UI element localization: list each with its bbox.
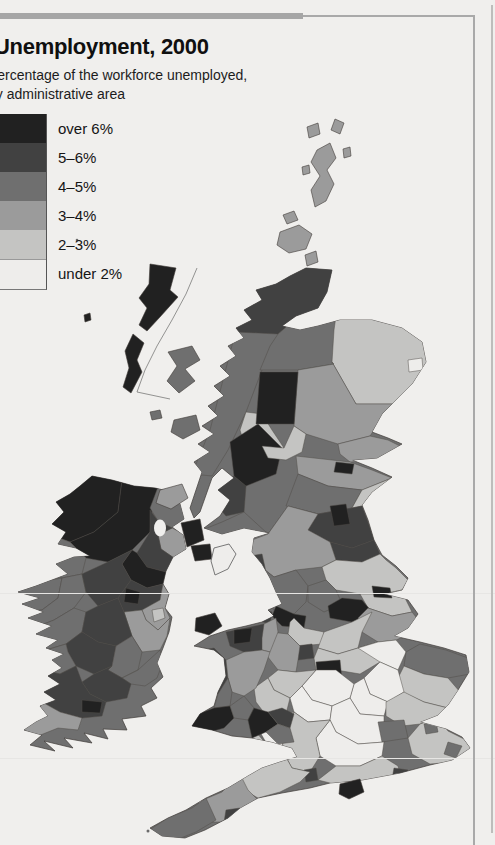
dust-speck-2 — [147, 830, 150, 833]
legend-label: 5–6% — [58, 143, 122, 172]
legend-label: 4–5% — [58, 172, 122, 201]
island-anglesey — [195, 613, 222, 635]
island-orkney-south — [305, 251, 318, 266]
header-rule — [0, 13, 303, 19]
region-nw-wales-spot — [234, 628, 252, 644]
region-aberdeen-city — [408, 358, 423, 372]
legend-swatch-column — [0, 114, 47, 290]
island-lewis-harris — [139, 264, 178, 331]
region-caithness-sutherland — [236, 262, 340, 334]
legend-swatch-4-5 — [0, 172, 46, 201]
island-mull — [171, 415, 200, 439]
scan-artifact-line — [0, 593, 495, 594]
region-london — [378, 720, 408, 742]
legend-swatch-3-4 — [0, 201, 46, 230]
island-shetland-east-speck — [343, 147, 351, 158]
region-hull — [372, 586, 392, 598]
island-shetland-mainland — [311, 143, 336, 207]
island-st-kilda — [84, 313, 91, 322]
island-shetland-west-speck — [302, 165, 310, 175]
map-title: Unemployment, 2000 — [0, 34, 209, 60]
island-kintyre-isles-2 — [191, 544, 212, 561]
region-medway — [424, 722, 438, 734]
island-skye — [167, 346, 200, 393]
legend-swatch-over-6 — [0, 114, 46, 143]
legend-labels: over 6% 5–6% 4–5% 3–4% 2–3% under 2% — [58, 114, 122, 288]
region-cornwall — [146, 798, 216, 840]
region-tralee-spot — [82, 700, 102, 713]
map-subtitle: Percentage of the workforce unemployed, … — [0, 66, 247, 104]
region-edinburgh-city — [334, 462, 354, 474]
legend-swatch-2-3 — [0, 230, 46, 259]
map-subtitle-line1: Percentage of the workforce unemployed, — [0, 66, 247, 85]
ireland-regions — [10, 474, 187, 736]
island-tiree — [150, 410, 162, 420]
lake-lough-neagh — [154, 520, 166, 537]
island-isle-of-man — [211, 544, 236, 575]
region-grampian-dark — [256, 372, 298, 424]
island-orkney-mainland — [277, 225, 312, 253]
region-brighton — [392, 768, 408, 780]
legend-label: under 2% — [58, 259, 122, 288]
legend-label: over 6% — [58, 114, 122, 143]
island-shetland-ne — [331, 119, 344, 134]
island-shetland-nw — [307, 123, 320, 138]
island-uists — [123, 334, 144, 393]
scan-artifact-line — [0, 758, 495, 759]
legend-swatch-5-6 — [0, 143, 46, 172]
atlas-page: Unemployment, 2000 Percentage of the wor… — [0, 0, 495, 845]
legend-swatch-under-2 — [0, 259, 46, 289]
page-frame-right — [473, 15, 475, 845]
page-gutter-line — [491, 5, 493, 833]
legend-label: 2–3% — [58, 230, 122, 259]
island-orkney-north — [283, 211, 298, 224]
region-kerry — [10, 658, 42, 718]
map-subtitle-line2: by administrative area — [0, 85, 247, 104]
legend-label: 3–4% — [58, 201, 122, 230]
page-frame-top — [303, 15, 475, 17]
